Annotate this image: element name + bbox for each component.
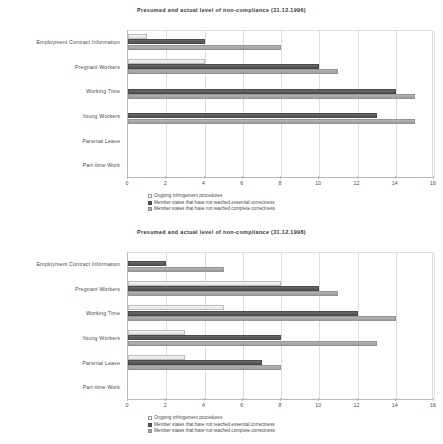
bar-1 — [128, 261, 166, 266]
plot-area — [127, 252, 433, 400]
legend-item: Member states that have not reached esse… — [148, 200, 275, 207]
axis-tick-label: 0 — [126, 402, 129, 408]
category-label: Parental Leave — [82, 138, 120, 144]
axis-tick-label: 4 — [202, 402, 205, 408]
category-group — [128, 56, 432, 81]
tick-mark — [204, 398, 205, 401]
category-label: Young Workers — [82, 335, 120, 341]
legend-item: Member states that have not reached comp… — [148, 428, 275, 435]
chart-legend: Ongoing infringement proceduresMember st… — [148, 415, 275, 435]
axis-tick-label: 10 — [315, 402, 321, 408]
axis-tick-label: 14 — [392, 180, 398, 186]
category-group — [128, 302, 432, 327]
bar-0 — [128, 355, 185, 360]
tick-mark — [433, 176, 434, 179]
axis-tick-label: 8 — [279, 402, 282, 408]
category-group — [128, 278, 432, 303]
tick-mark — [127, 398, 128, 401]
tick-mark — [165, 176, 166, 179]
bar-2 — [128, 45, 281, 50]
category-group — [128, 80, 432, 105]
category-axis-labels: Employment Contract InformationPregnant … — [0, 30, 124, 178]
bar-2 — [128, 69, 338, 74]
page-root: Presumed and actual level of non-complia… — [0, 0, 443, 444]
tick-mark — [357, 176, 358, 179]
axis-tick-label: 12 — [354, 402, 360, 408]
bar-2 — [128, 316, 396, 321]
axis-tick-label: 8 — [279, 180, 282, 186]
category-axis-labels: Employment Contract InformationPregnant … — [0, 252, 124, 400]
tick-mark — [395, 176, 396, 179]
chart-title: Presumed and actual level of non-complia… — [0, 7, 443, 13]
bar-1 — [128, 360, 262, 365]
category-label: Working Time — [86, 310, 120, 316]
tick-mark — [165, 398, 166, 401]
legend-swatch-icon — [148, 429, 152, 433]
tick-mark — [242, 398, 243, 401]
category-label: Part-time Work — [83, 162, 120, 168]
gridline — [434, 31, 435, 177]
tick-mark — [357, 398, 358, 401]
legend-label: Ongoing infringement procedures — [154, 193, 222, 200]
gridline — [434, 253, 435, 399]
tick-mark — [242, 176, 243, 179]
legend-swatch-icon — [148, 201, 152, 205]
tick-mark — [395, 398, 396, 401]
category-group — [128, 31, 432, 56]
bar-2 — [128, 267, 224, 272]
category-label: Pregnant Workers — [75, 64, 120, 70]
legend-item: Ongoing infringement procedures — [148, 193, 275, 200]
category-group — [128, 105, 432, 130]
tick-mark — [280, 398, 281, 401]
category-group — [128, 352, 432, 377]
axis-tick-label: 12 — [354, 180, 360, 186]
value-axis: 0246810121416 — [127, 402, 433, 414]
category-label: Parental Leave — [82, 360, 120, 366]
category-group — [128, 253, 432, 278]
tick-mark — [433, 398, 434, 401]
axis-tick-label: 16 — [430, 180, 436, 186]
tick-mark — [318, 398, 319, 401]
legend-label: Member states that have not reached comp… — [154, 428, 275, 435]
bar-1 — [128, 39, 205, 44]
bar-0 — [128, 59, 205, 64]
axis-tick-label: 6 — [240, 402, 243, 408]
legend-swatch-icon — [148, 207, 152, 211]
bar-2 — [128, 94, 415, 99]
legend-swatch-icon — [148, 194, 152, 198]
bar-1 — [128, 64, 319, 69]
legend-label: Member states that have not reached comp… — [154, 206, 275, 213]
axis-tick-label: 14 — [392, 402, 398, 408]
legend-label: Ongoing infringement procedures — [154, 415, 222, 422]
bar-0 — [128, 330, 185, 335]
tick-mark — [127, 176, 128, 179]
axis-tick-label: 0 — [126, 180, 129, 186]
bar-1 — [128, 335, 281, 340]
plot-area — [127, 30, 433, 178]
legend-label: Member states that have not reached esse… — [154, 200, 275, 207]
axis-tick-label: 4 — [202, 180, 205, 186]
legend-item: Member states that have not reached esse… — [148, 422, 275, 429]
bar-1 — [128, 89, 396, 94]
legend-swatch-icon — [148, 423, 152, 427]
legend-swatch-icon — [148, 416, 152, 420]
category-label: Young Workers — [82, 113, 120, 119]
value-axis: 0246810121416 — [127, 180, 433, 192]
bar-2 — [128, 365, 281, 370]
axis-tick-label: 16 — [430, 402, 436, 408]
category-label: Pregnant Workers — [75, 286, 120, 292]
legend-item: Ongoing infringement procedures — [148, 415, 275, 422]
axis-tick-label: 10 — [315, 180, 321, 186]
tick-mark — [280, 176, 281, 179]
bar-1 — [128, 113, 377, 118]
legend-label: Member states that have not reached esse… — [154, 422, 275, 429]
bar-1 — [128, 311, 358, 316]
axis-tick-label: 2 — [164, 180, 167, 186]
chart-legend: Ongoing infringement proceduresMember st… — [148, 193, 275, 213]
category-label: Part-time Work — [83, 384, 120, 390]
legend-item: Member states that have not reached comp… — [148, 206, 275, 213]
axis-tick-label: 2 — [164, 402, 167, 408]
category-label: Employment Contract Information — [36, 261, 120, 267]
chart-block-1996: Presumed and actual level of non-complia… — [0, 0, 443, 222]
axis-tick-label: 6 — [240, 180, 243, 186]
